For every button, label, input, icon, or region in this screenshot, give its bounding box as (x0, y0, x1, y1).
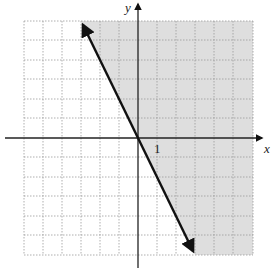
inequality-graph: x y 1 (0, 0, 274, 270)
tick-label-1: 1 (154, 141, 161, 156)
graph-canvas: x y 1 (0, 0, 274, 270)
y-axis-label: y (123, 0, 131, 15)
x-axis-label: x (263, 141, 270, 156)
